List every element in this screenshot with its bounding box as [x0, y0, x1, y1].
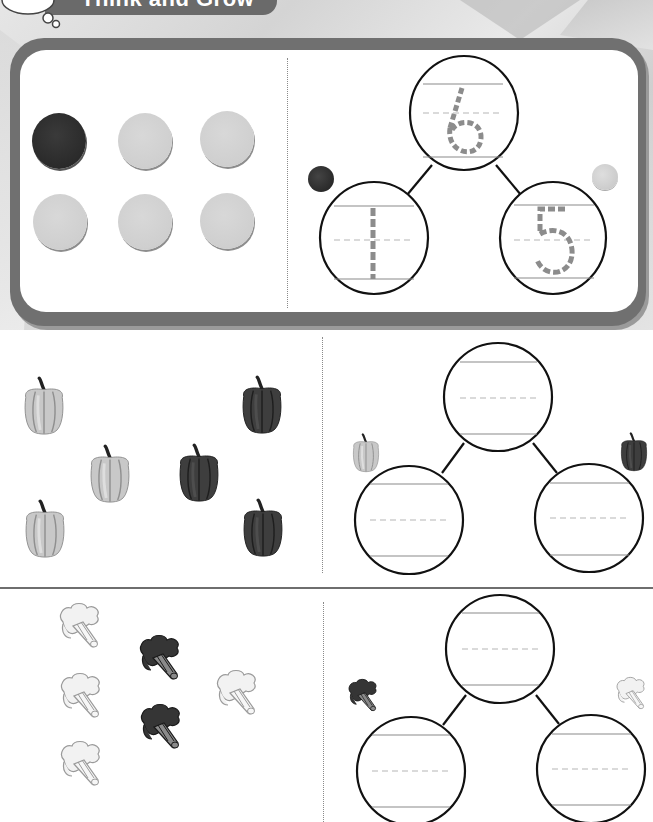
- bond-whole-circle[interactable]: [446, 595, 554, 703]
- bond-part-left-circle[interactable]: [357, 717, 465, 822]
- bond-part-right-circle[interactable]: [537, 715, 645, 822]
- broccoli-number-bond: [0, 0, 653, 822]
